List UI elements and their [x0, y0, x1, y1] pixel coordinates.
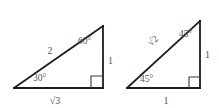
triangle-45-45-90-base-label: 1 [164, 95, 169, 106]
triangle-30-60-90-angle-bottom-left-label: 30° [33, 73, 47, 83]
special-right-triangles-figure: 2 1 √3 30° 60° √2 [0, 0, 219, 108]
triangle-45-45-90-hypotenuse-label-text: √2 [145, 33, 160, 48]
triangle-30-60-90-vertical-leg-label: 1 [108, 55, 113, 66]
triangle-30-60-90: 2 1 √3 30° 60° [14, 26, 113, 106]
triangle-30-60-90-angle-top-right-label: 60° [78, 36, 92, 46]
triangle-30-60-90-hypotenuse-label: 2 [48, 45, 53, 56]
triangle-30-60-90-base-label-text: √3 [50, 95, 61, 106]
triangle-30-60-90-right-angle-icon [91, 76, 103, 88]
triangle-30-60-90-base-label: √3 [50, 95, 61, 106]
triangle-45-45-90-right-angle-icon [189, 77, 200, 88]
triangle-45-45-90-hypotenuse-label: √2 [145, 33, 160, 48]
triangle-45-45-90: √2 1 1 45° 45° [127, 21, 210, 106]
triangle-45-45-90-angle-bottom-left-label: 45° [140, 74, 154, 84]
triangle-45-45-90-vertical-leg-label: 1 [205, 49, 210, 60]
triangle-45-45-90-angle-top-right-label: 45° [179, 29, 193, 39]
geometry-diagram: 2 1 √3 30° 60° √2 [0, 0, 219, 108]
